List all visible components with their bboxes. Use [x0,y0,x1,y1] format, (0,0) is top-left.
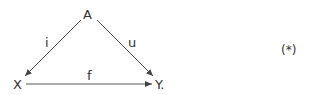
edge-label-u: u [128,36,136,49]
equation-tag: (*) [281,44,296,56]
edge-label-i: i [45,36,49,49]
node-x: X [13,78,22,91]
arrow-a-to-x [25,20,81,76]
node-a: A [83,8,92,21]
edge-label-f: f [87,69,92,82]
node-y: Y. [155,78,164,91]
arrow-a-to-y [97,20,153,76]
